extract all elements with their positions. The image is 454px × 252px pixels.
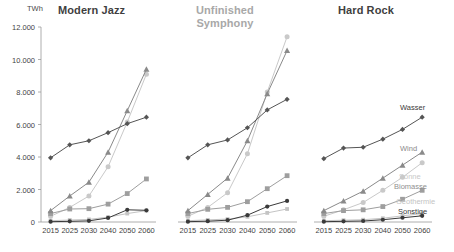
panel-title-2: UnfinishedSymphony (196, 4, 254, 29)
x-axis-tick-label: 2040 (239, 226, 256, 235)
data-point-sonne (420, 160, 425, 165)
y-axis-tick-label: 12.000 (0, 23, 35, 32)
data-point-wasser (105, 130, 110, 135)
data-point-wind (67, 193, 73, 199)
data-point-biomasse (205, 207, 210, 212)
three-panel-line-chart-figure: TWh02.0004.0006.0008.00010.00012.000Mode… (0, 0, 454, 252)
data-point-wind (143, 66, 149, 72)
series-line-sonstige (188, 201, 287, 222)
data-point-sonstige (225, 218, 229, 222)
data-point-sonstige (68, 219, 72, 223)
series-line-wasser (51, 117, 147, 158)
data-point-sonstige (245, 213, 249, 217)
data-point-wasser (420, 115, 425, 120)
y-axis-tick-label: 8.000 (0, 88, 35, 97)
data-point-sonne (245, 151, 250, 156)
data-point-wasser (86, 138, 91, 143)
series-line-sonne (188, 37, 287, 217)
data-point-sonstige (144, 208, 148, 212)
y-axis-tick-label: 4.000 (0, 153, 35, 162)
data-point-biomasse (265, 186, 270, 191)
data-point-biomasse (245, 199, 250, 204)
data-point-wind (419, 149, 425, 155)
data-point-wind (225, 175, 231, 181)
x-axis-tick-label: 2015 (315, 226, 332, 235)
data-point-sonne (285, 34, 290, 39)
x-axis-tick-label: 2030 (355, 226, 372, 235)
panel-title-1: Modern Jazz (58, 4, 125, 16)
data-point-sonne (106, 164, 111, 169)
x-axis-tick-label: 2025 (335, 226, 352, 235)
data-point-wasser (205, 142, 210, 147)
chart-canvas (0, 0, 454, 252)
data-point-sonne (380, 188, 385, 193)
data-point-sonstige (106, 216, 110, 220)
data-point-wind (321, 208, 327, 214)
data-point-wind (124, 108, 130, 114)
y-axis-tick-label: 6.000 (0, 120, 35, 129)
data-point-biomasse (380, 204, 385, 209)
data-point-biomasse (125, 191, 130, 196)
data-point-sonstige (322, 220, 326, 224)
legend-label-sonstige: Sonstige (398, 207, 427, 216)
data-point-biomasse (285, 173, 290, 178)
panel-title-3: Hard Rock (338, 4, 394, 16)
y-axis-tick-label: 2.000 (0, 185, 35, 194)
data-point-sonstige (125, 208, 129, 212)
legend-label-wasser: Wasser (400, 103, 425, 112)
x-axis-tick-label: 2060 (414, 226, 431, 235)
x-axis-tick-label: 2060 (279, 226, 296, 235)
legend-label-wind: Wind (400, 144, 417, 153)
data-point-sonstige (186, 220, 190, 224)
data-point-sonstige (400, 216, 404, 220)
data-point-sonstige (381, 218, 385, 222)
x-axis-tick-label: 2050 (259, 226, 276, 235)
series-line-sonne (51, 74, 147, 216)
y-axis-unit-label: TWh (27, 4, 43, 13)
data-point-wasser (284, 97, 289, 102)
y-axis-tick-label: 10.000 (0, 55, 35, 64)
data-point-sonstige (265, 204, 269, 208)
x-axis-tick-label: 2030 (81, 226, 98, 235)
legend-label-biomasse: Biomasse (394, 182, 427, 191)
x-axis-tick-label: 2025 (61, 226, 78, 235)
data-point-sonne (225, 190, 230, 195)
x-axis-tick-label: 2025 (199, 226, 216, 235)
data-point-wind (360, 188, 366, 194)
data-point-geothermie (265, 211, 269, 215)
x-axis-tick-label: 2040 (100, 226, 117, 235)
x-axis-tick-label: 2030 (219, 226, 236, 235)
x-axis-tick-label: 2015 (180, 226, 197, 235)
data-point-wasser (361, 145, 366, 150)
data-point-wasser (380, 137, 385, 142)
x-axis-tick-label: 2040 (374, 226, 391, 235)
data-point-wasser (321, 156, 326, 161)
legend-label-geothermie: Geothermie (396, 197, 435, 206)
data-point-sonstige (341, 219, 345, 223)
data-point-wasser (341, 145, 346, 150)
data-point-wind (86, 179, 92, 185)
x-axis-tick-label: 2060 (138, 226, 155, 235)
data-point-biomasse (225, 205, 230, 210)
data-point-wind (244, 138, 250, 144)
data-point-wind (105, 149, 111, 155)
data-point-biomasse (106, 202, 111, 207)
y-axis-tick-label: 0 (0, 218, 35, 227)
data-point-biomasse (87, 206, 92, 211)
data-point-biomasse (361, 207, 366, 212)
x-axis-tick-label: 2050 (394, 226, 411, 235)
data-point-sonstige (361, 219, 365, 223)
data-point-wasser (185, 155, 190, 160)
data-point-wind (380, 175, 386, 181)
series-line-wind (188, 51, 287, 211)
data-point-biomasse (341, 208, 346, 213)
data-point-biomasse (144, 177, 149, 182)
data-point-wind (400, 162, 406, 168)
data-point-sonstige (285, 199, 289, 203)
legend-label-sonne: Sonne (399, 172, 421, 181)
data-point-wind (284, 48, 290, 54)
data-point-wasser (225, 137, 230, 142)
series-line-biomasse (51, 179, 147, 214)
data-point-wind (341, 198, 347, 204)
data-point-wasser (144, 115, 149, 120)
